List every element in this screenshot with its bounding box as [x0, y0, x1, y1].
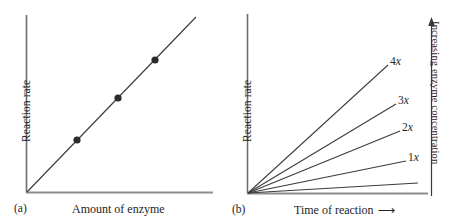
panel-a-data-point	[114, 94, 121, 101]
panel-b-x-axis-label-text: Time of reaction	[294, 203, 374, 217]
curve-label-3x: 3x	[398, 94, 409, 106]
curve-label-1x-variable: x	[414, 151, 419, 163]
panel-a-plot	[0, 0, 228, 224]
panel-b-line-4x	[248, 65, 388, 193]
panel-a-data-point	[151, 56, 158, 63]
curve-label-2x-variable: x	[408, 121, 413, 133]
panel-a: Reaction rate Amount of enzyme (a)	[0, 0, 228, 224]
increasing-concentration-label: Increasing enzyme concentration	[430, 21, 441, 164]
panel-a-tag: (a)	[14, 202, 27, 214]
panel-b: Reaction rate Time of reaction⟶ (b) 4x 3…	[228, 0, 457, 224]
curve-label-4x-variable: x	[396, 55, 401, 67]
panel-a-y-axis-label: Reaction rate	[20, 80, 32, 142]
curve-label-2x: 2x	[402, 121, 413, 133]
panel-b-tag: (b)	[232, 203, 245, 215]
panel-b-y-axis-label: Reaction rate	[241, 80, 253, 142]
panel-b-plot	[228, 0, 457, 224]
right-arrow-icon: ⟶	[378, 203, 394, 218]
panel-a-data-point	[73, 136, 80, 143]
enzyme-kinetics-figure: Reaction rate Amount of enzyme (a) React…	[0, 0, 457, 224]
curve-label-1x: 1x	[408, 151, 419, 163]
panel-a-trend-line	[27, 17, 196, 192]
panel-b-line-3x	[248, 104, 396, 193]
curve-label-4x: 4x	[390, 55, 401, 67]
panel-a-x-axis-label: Amount of enzyme	[72, 202, 165, 217]
panel-b-line-2x	[248, 131, 400, 193]
curve-label-3x-variable: x	[404, 94, 409, 106]
panel-b-x-axis-label: Time of reaction⟶	[294, 203, 394, 218]
